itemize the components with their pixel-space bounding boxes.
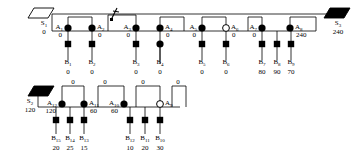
arch-label-3: 0 — [141, 78, 145, 86]
value-a11: 60 — [90, 107, 97, 115]
value-a3: 0 — [127, 31, 131, 39]
node-b3[interactable] — [133, 41, 139, 47]
value-b13: 15 — [81, 144, 88, 152]
node-a10[interactable] — [120, 100, 127, 107]
arch-label-4: 0 — [176, 78, 180, 86]
node-a8[interactable] — [286, 24, 293, 31]
value-a8: 240 — [296, 31, 307, 39]
node-a9[interactable] — [157, 101, 164, 108]
value-a1: 0 — [59, 31, 63, 39]
value-a5: 0 — [193, 31, 197, 39]
value-b14: 25 — [67, 144, 74, 152]
value-b3: 0 — [134, 68, 138, 76]
label-a9: A9 — [165, 99, 173, 110]
value-b6: 0 — [224, 68, 228, 76]
value-b2: 0 — [90, 68, 94, 76]
source-s1-parallelogram-open — [28, 8, 54, 18]
node-a11[interactable] — [80, 100, 87, 107]
node-b5[interactable] — [199, 41, 205, 47]
source-s3-parallelogram-filled — [324, 8, 350, 18]
node-a4[interactable] — [156, 24, 163, 31]
value-s2: 120 — [25, 106, 36, 114]
node-a5[interactable] — [198, 24, 205, 31]
node-b13[interactable] — [81, 117, 87, 123]
node-b1[interactable] — [65, 41, 71, 47]
node-a6[interactable] — [223, 25, 230, 32]
arch-label-1: 0 — [71, 78, 75, 86]
value-b5: 0 — [200, 68, 204, 76]
value-a2: 0 — [98, 31, 102, 39]
value-b1: 0 — [66, 68, 70, 76]
value-a12: 120 — [46, 107, 57, 115]
arch-label-2: 0 — [103, 78, 107, 86]
value-b12: 10 — [127, 144, 134, 152]
node-b6[interactable] — [223, 41, 229, 47]
value-a10: 60 — [111, 107, 118, 115]
value-a4: 0 — [166, 31, 170, 39]
source-s2-parallelogram-filled — [28, 86, 54, 96]
value-b10: 30 — [157, 144, 164, 152]
node-b2[interactable] — [89, 41, 95, 47]
value-b9: 70 — [288, 68, 295, 76]
node-a12[interactable] — [58, 100, 65, 107]
node-b8[interactable] — [274, 41, 280, 47]
value-b15: 20 — [53, 144, 60, 152]
value-b4: 0 — [158, 68, 162, 76]
node-b12[interactable] — [127, 117, 133, 123]
node-a2[interactable] — [88, 24, 95, 31]
value-b8: 90 — [274, 68, 281, 76]
value-a6: 0 — [232, 31, 236, 39]
break-slash-marker — [110, 8, 119, 21]
value-b7: 80 — [259, 68, 266, 76]
node-b10[interactable] — [157, 117, 163, 123]
node-b11[interactable] — [142, 117, 148, 123]
node-a7[interactable] — [258, 24, 265, 31]
node-b15[interactable] — [53, 117, 59, 123]
node-b14[interactable] — [67, 117, 73, 123]
node-b4[interactable] — [156, 40, 163, 47]
node-b7[interactable] — [259, 41, 265, 47]
node-b9[interactable] — [288, 41, 294, 47]
value-s3: 240 — [333, 28, 344, 36]
node-a3[interactable] — [132, 24, 139, 31]
value-s1: 0 — [42, 28, 46, 36]
node-a1[interactable] — [64, 24, 71, 31]
value-a7: 0 — [253, 31, 257, 39]
value-b11: 20 — [142, 144, 149, 152]
